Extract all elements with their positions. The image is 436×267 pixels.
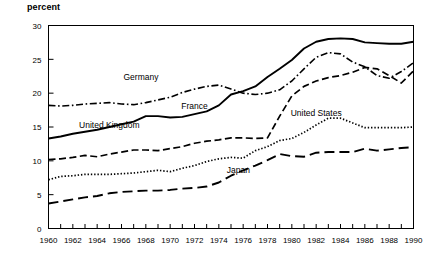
- x-tick-label: 1970: [161, 236, 179, 245]
- x-tick-label: 1972: [186, 236, 204, 245]
- x-tick-label: 1988: [380, 236, 398, 245]
- x-tick-label: 1990: [405, 236, 423, 245]
- x-tick-label: 1968: [137, 236, 155, 245]
- y-tick-label: 30: [33, 22, 42, 31]
- x-tick-label: 1980: [283, 236, 301, 245]
- series-label-united-kingdom: United Kingdom: [79, 120, 139, 130]
- y-tick-label: 20: [33, 89, 42, 98]
- x-axis-tick-labels: 1960196219641966196819701972197419761978…: [40, 236, 423, 245]
- y-tick-label: 15: [33, 123, 42, 132]
- y-axis-tick-labels: 051015202530: [33, 22, 42, 234]
- line-chart-svg: 1960196219641966196819701972197419761978…: [0, 0, 436, 267]
- chart-figure: percent 19601962196419661968197019721974…: [0, 0, 436, 267]
- y-tick-label: 25: [33, 56, 42, 65]
- x-tick-label: 1976: [234, 236, 252, 245]
- y-tick-label: 5: [37, 191, 42, 200]
- x-tick-label: 1984: [332, 236, 350, 245]
- series-label-france: France: [181, 101, 208, 111]
- x-tick-label: 1960: [40, 236, 58, 245]
- series-annotations: GermanyFranceUnited KingdomUnited States…: [79, 72, 342, 175]
- series-label-japan: Japan: [227, 165, 250, 175]
- x-tick-label: 1978: [259, 236, 277, 245]
- y-tick-label: 0: [37, 225, 42, 234]
- x-tick-label: 1964: [88, 236, 106, 245]
- x-tick-label: 1986: [356, 236, 374, 245]
- series-line-germany: [49, 53, 414, 106]
- series-line-united-kingdom: [49, 67, 414, 159]
- series-label-united-states: United States: [291, 108, 342, 118]
- y-tick-label: 10: [33, 157, 42, 166]
- x-tick-label: 1982: [307, 236, 325, 245]
- x-tick-label: 1962: [64, 236, 82, 245]
- x-tick-label: 1974: [210, 236, 228, 245]
- x-axis-ticks: [49, 224, 414, 229]
- series-label-germany: Germany: [123, 72, 159, 82]
- y-axis-ticks: [49, 26, 54, 229]
- x-tick-label: 1966: [113, 236, 131, 245]
